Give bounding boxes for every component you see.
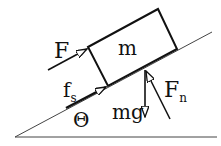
normal-force-label: Fn bbox=[164, 79, 187, 101]
friction-label: fs bbox=[63, 80, 77, 100]
applied-force-label: F bbox=[54, 40, 69, 62]
mass-label: m bbox=[118, 38, 137, 58]
friction-label-subscript: s bbox=[70, 91, 76, 105]
normal-force-label-main: F bbox=[164, 77, 179, 102]
diagram-graphics bbox=[0, 0, 221, 146]
incline-diagram: m F fs Θ mg Fn bbox=[0, 0, 221, 146]
angle-label: Θ bbox=[73, 110, 89, 130]
normal-force-label-subscript: n bbox=[179, 91, 187, 105]
weight-label: mg bbox=[112, 102, 144, 122]
